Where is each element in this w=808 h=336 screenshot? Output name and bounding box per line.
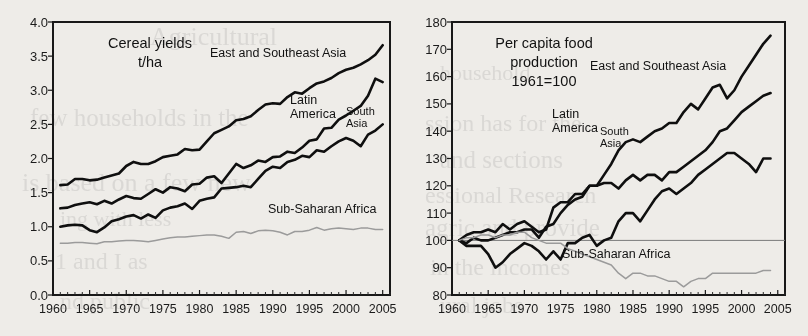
x-tick-label: 1975: [547, 302, 575, 316]
per-capita-food-production-chart-canvas: 1801701601501401301201101009080196019651…: [404, 0, 808, 336]
chart-title-line: production: [510, 54, 578, 70]
series-annotation-latin-america: Latin: [552, 107, 579, 121]
y-tick-label: 0.0: [30, 288, 48, 303]
y-tick-label: 0.5: [30, 253, 48, 268]
x-tick-label: 1965: [76, 302, 104, 316]
y-tick-label: 3.0: [30, 83, 48, 98]
series-annotation-south-asia: South: [346, 105, 375, 117]
x-tick-label: 1995: [691, 302, 719, 316]
y-tick-label: 100: [425, 233, 447, 248]
x-tick-label: 2000: [332, 302, 360, 316]
y-tick-label: 180: [425, 15, 447, 30]
y-tick-label: 120: [425, 178, 447, 193]
series-annotation-south-asia: Asia: [346, 117, 368, 129]
x-tick-label: 1985: [222, 302, 250, 316]
y-tick-label: 140: [425, 124, 447, 139]
x-tick-label: 1990: [259, 302, 287, 316]
x-tick-label: 1985: [619, 302, 647, 316]
series-annotation-south-asia: South: [600, 125, 629, 137]
series-annotation-sub-saharan-africa: Sub-Saharan Africa: [562, 247, 670, 261]
y-tick-label: 1.5: [30, 185, 48, 200]
x-tick-label: 1980: [583, 302, 611, 316]
y-tick-label: 170: [425, 42, 447, 57]
x-tick-label: 1980: [186, 302, 214, 316]
y-tick-label: 3.5: [30, 49, 48, 64]
x-tick-label: 1990: [655, 302, 683, 316]
y-tick-label: 110: [426, 206, 447, 221]
y-tick-label: 2.0: [30, 151, 48, 166]
cereal-yields-chart: 4.03.53.02.52.01.51.00.50.01960196519701…: [0, 0, 404, 336]
y-tick-label: 4.0: [30, 15, 48, 30]
y-tick-label: 130: [425, 151, 447, 166]
cereal-yields-chart-canvas: 4.03.53.02.52.01.51.00.50.01960196519701…: [0, 0, 404, 336]
series-annotation-south-asia: Asia: [600, 137, 622, 149]
series-annotation-latin-america: America: [552, 121, 598, 135]
chart-title-line: t/ha: [138, 54, 163, 70]
series-annotation-east-southeast-asia: East and Southeast Asia: [210, 46, 346, 60]
series-line-south-asia: [60, 124, 382, 232]
y-tick-label: 90: [433, 260, 447, 275]
y-tick-label: 80: [433, 288, 447, 303]
series-line-latin-america: [459, 93, 770, 240]
series-annotation-latin-america: Latin: [290, 93, 317, 107]
y-tick-label: 150: [425, 96, 447, 111]
y-tick-label: 2.5: [30, 117, 48, 132]
per-capita-food-production-chart: 1801701601501401301201101009080196019651…: [404, 0, 808, 336]
x-tick-label: 1970: [510, 302, 538, 316]
plot-frame: [53, 22, 390, 295]
scanned-figure-page: Agriculturalfew households in theis base…: [0, 0, 808, 336]
series-annotation-east-southeast-asia: East and Southeast Asia: [590, 59, 726, 73]
y-tick-label: 1.0: [30, 219, 48, 234]
series-annotation-sub-saharan-africa: Sub-Saharan Africa: [268, 202, 376, 216]
chart-title-line: Per capita food: [495, 35, 593, 51]
x-tick-label: 1960: [39, 302, 67, 316]
x-tick-label: 1995: [296, 302, 324, 316]
x-tick-label: 1975: [149, 302, 177, 316]
chart-title-line: 1961=100: [512, 73, 577, 89]
x-tick-label: 1970: [112, 302, 140, 316]
x-tick-label: 1965: [474, 302, 502, 316]
x-tick-label: 2005: [764, 302, 792, 316]
x-tick-label: 2005: [369, 302, 397, 316]
series-annotation-latin-america: America: [290, 107, 336, 121]
x-tick-label: 2000: [728, 302, 756, 316]
chart-title-line: Cereal yields: [108, 35, 192, 51]
series-line-sub-saharan-africa: [60, 227, 382, 243]
x-tick-label: 1960: [438, 302, 466, 316]
y-tick-label: 160: [425, 69, 447, 84]
